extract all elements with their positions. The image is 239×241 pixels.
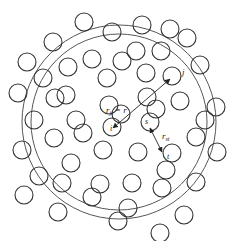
particle-circle	[171, 92, 189, 110]
particle-circle	[67, 111, 85, 129]
particle-circle	[94, 141, 112, 159]
particle-circle	[91, 175, 109, 193]
particle-circle	[46, 89, 64, 107]
rst-label: rst	[162, 131, 170, 142]
particle-circle	[129, 143, 147, 161]
particle-s-label: s	[145, 117, 148, 126]
particle-circle	[44, 33, 62, 51]
rst-vector-arrow	[150, 128, 162, 152]
particle-circle	[18, 53, 36, 71]
particle-t-label: t	[167, 152, 170, 161]
particle-circle	[187, 173, 205, 191]
particles	[9, 13, 226, 241]
particle-circle	[137, 64, 155, 82]
particle-circle	[191, 56, 209, 74]
particle-circle	[151, 224, 169, 241]
particle-circle	[187, 128, 205, 146]
particle-circle	[45, 129, 63, 147]
particle-circle	[30, 167, 48, 185]
particle-circle	[208, 143, 226, 161]
particle-circle	[123, 174, 141, 192]
particle-circle	[133, 16, 151, 34]
particle-i-label: i	[110, 124, 112, 133]
particle-circle	[138, 88, 156, 106]
particle-circle	[178, 29, 196, 47]
particle-j-label: j	[181, 67, 185, 77]
particle-circle	[153, 179, 171, 197]
particle-circle	[119, 199, 137, 217]
particle-circle	[83, 188, 101, 206]
particle-circle	[161, 20, 179, 38]
particle-t	[163, 144, 181, 162]
shell-diagram: rji= r i j s t rst	[0, 0, 239, 241]
particle-circle	[75, 13, 93, 31]
particle-circle	[157, 161, 175, 179]
particle-circle	[49, 203, 67, 221]
particle-circle	[175, 206, 193, 224]
particle-circle	[196, 111, 214, 129]
particle-circle	[83, 50, 101, 68]
particle-circle	[109, 212, 127, 230]
particle-circle	[9, 84, 27, 102]
particle-circle	[62, 154, 80, 172]
particle-circle	[57, 86, 75, 104]
particle-circle	[59, 58, 77, 76]
particle-circle	[15, 186, 33, 204]
particle-circle	[98, 69, 116, 87]
particle-circle	[113, 52, 131, 70]
particle-circle	[74, 124, 92, 142]
particle-circle	[25, 111, 43, 129]
particle-circle	[13, 141, 31, 159]
rji-label: rji= r	[106, 105, 127, 116]
